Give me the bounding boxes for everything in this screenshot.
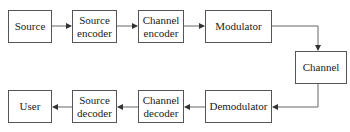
source-decoder-block: Sourcedecoder	[72, 90, 117, 123]
user-block: User	[8, 90, 52, 123]
source-block: Source	[8, 10, 52, 43]
channel-encoder-block: Channelencoder	[138, 10, 184, 43]
source-label: Source	[15, 20, 46, 33]
modulator-label: Modulator	[215, 20, 261, 33]
demodulator-label: Demodulator	[209, 100, 267, 113]
arrow-channel-to-demodulator	[273, 84, 318, 107]
source-encoder-label-2: encoder	[77, 27, 112, 39]
channel-label: Channel	[303, 61, 340, 74]
channel-decoder-label-2: decoder	[144, 107, 179, 119]
source-encoder-label-1: Source	[79, 14, 110, 26]
channel-encoder-label-2: encoder	[144, 27, 179, 39]
source-decoder-label-1: Source	[79, 94, 110, 106]
demodulator-block: Demodulator	[205, 90, 272, 123]
channel-block: Channel	[295, 51, 347, 84]
channel-encoder-label-1: Channel	[143, 14, 180, 26]
arrow-modulator-to-channel	[272, 26, 318, 50]
source-decoder-label-2: decoder	[77, 107, 112, 119]
channel-decoder-block: Channeldecoder	[138, 90, 184, 123]
channel-decoder-label-1: Channel	[143, 94, 180, 106]
user-label: User	[20, 100, 41, 113]
modulator-block: Modulator	[205, 10, 272, 43]
source-encoder-block: Sourceencoder	[72, 10, 117, 43]
